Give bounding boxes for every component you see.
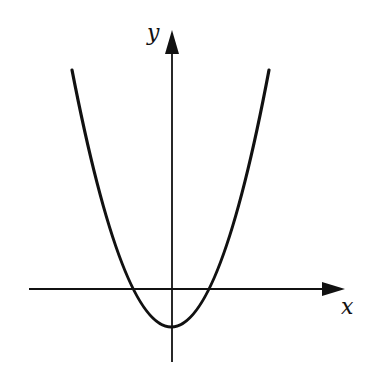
y-axis-label: y [147, 22, 159, 44]
y-axis-arrow-icon [165, 30, 179, 54]
graph-canvas [0, 0, 377, 383]
x-axis-label: x [341, 296, 353, 318]
